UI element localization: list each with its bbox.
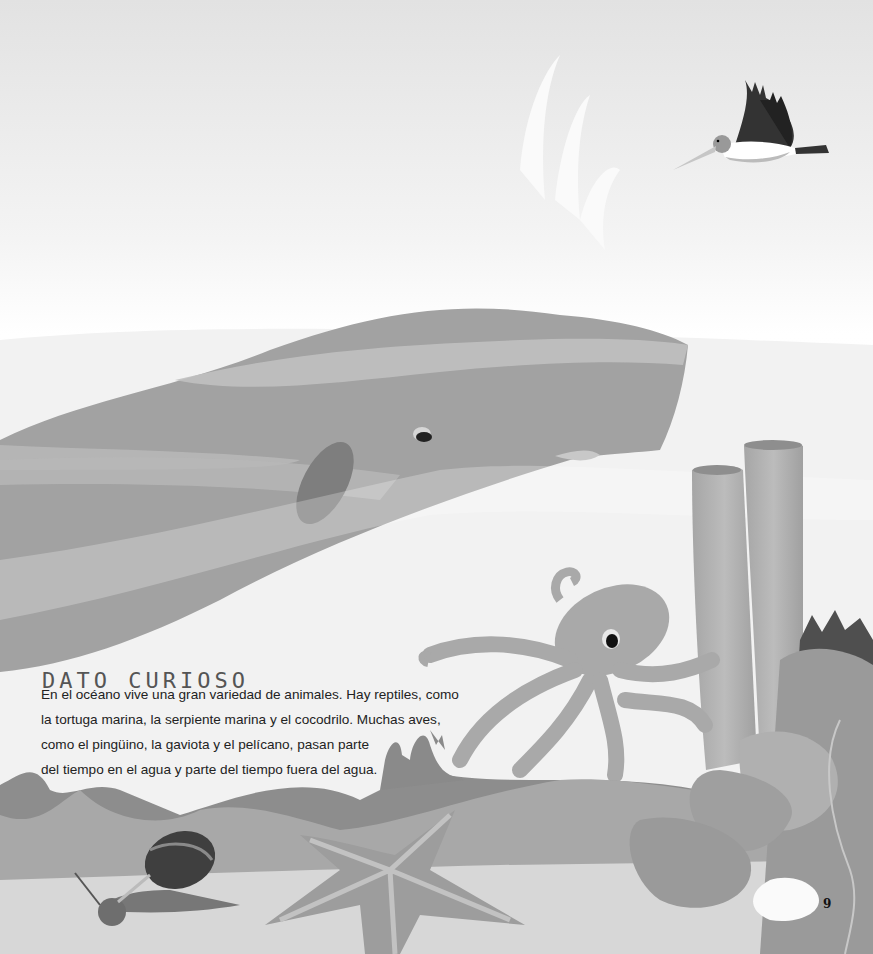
body-line: la tortuga marina, la serpiente marina y… [41,707,441,732]
body-line: del tiempo en el agua y parte del tiempo… [41,757,441,782]
page-number: 9 [823,897,831,911]
body-line: como el pingüino, la gaviota y el pelíca… [41,732,441,757]
body-paragraph: En el océano vive una gran variedad de a… [41,682,441,782]
body-line: En el océano vive una gran variedad de a… [41,682,441,707]
illustration [0,0,873,954]
